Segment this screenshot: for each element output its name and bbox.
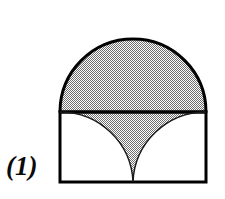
- figure-container: (1): [0, 0, 225, 199]
- figure-label: (1): [6, 146, 54, 186]
